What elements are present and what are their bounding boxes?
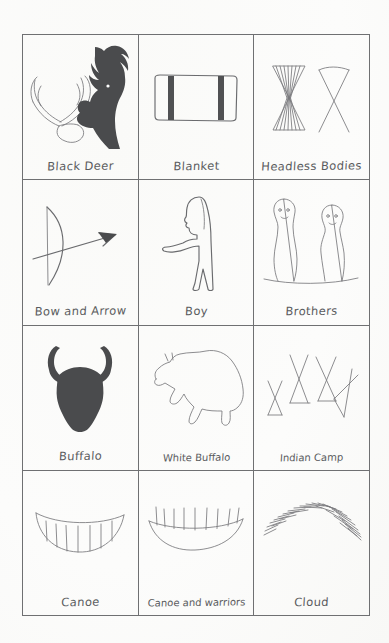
- cell-label: Canoe: [22, 596, 138, 616]
- symbol-grid: Black Deer Blanket: [22, 34, 370, 616]
- cloud-hatch-icon: [254, 471, 369, 597]
- scanned-page: Black Deer Blanket: [0, 0, 389, 643]
- cell-bow-and-arrow[interactable]: Bow and Arrow: [23, 180, 139, 325]
- cell-label: Bow and Arrow: [22, 305, 138, 325]
- cell-label: Canoe and warriors: [138, 597, 254, 615]
- table-row: Buffalo White Buffalo: [23, 325, 370, 470]
- cell-label: Buffalo: [22, 451, 138, 471]
- cell-black-deer[interactable]: Black Deer: [23, 35, 139, 180]
- cell-canoe[interactable]: Canoe: [23, 470, 139, 615]
- cell-headless-bodies[interactable]: Headless Bodies: [254, 35, 370, 180]
- cell-boy[interactable]: Boy: [138, 180, 254, 325]
- cell-indian-camp[interactable]: Indian Camp: [254, 325, 370, 470]
- cell-cloud[interactable]: Cloud: [254, 470, 370, 615]
- cell-label: Brothers: [254, 305, 370, 325]
- blanket-icon: [139, 35, 254, 161]
- cell-label: Boy: [138, 305, 254, 325]
- buffalo-head-icon: [23, 326, 138, 452]
- buffalo-outline-icon: [139, 326, 254, 453]
- cell-label: Indian Camp: [254, 452, 370, 470]
- cell-white-buffalo[interactable]: White Buffalo: [138, 325, 254, 470]
- cell-label: Blanket: [138, 160, 254, 180]
- deer-head-icon: [23, 35, 138, 161]
- two-figures-icon: [254, 180, 369, 306]
- hourglass-bodies-icon: [254, 35, 369, 161]
- cell-label: Black Deer: [22, 160, 138, 180]
- cell-label: Headless Bodies: [254, 160, 370, 180]
- cell-canoe-and-warriors[interactable]: Canoe and warriors: [138, 470, 254, 615]
- tepees-icon: [254, 326, 369, 453]
- cell-brothers[interactable]: Brothers: [254, 180, 370, 325]
- cell-blanket[interactable]: Blanket: [138, 35, 254, 180]
- pictograph-chart: Black Deer Blanket: [22, 34, 370, 616]
- canoe-icon: [23, 471, 138, 597]
- bow-arrow-icon: [23, 180, 138, 306]
- canoe-warriors-icon: [139, 471, 254, 598]
- table-row: Canoe: [23, 470, 370, 615]
- table-row: Bow and Arrow Boy: [23, 180, 370, 325]
- cell-label: Cloud: [254, 596, 370, 616]
- cell-buffalo[interactable]: Buffalo: [23, 325, 139, 470]
- table-row: Black Deer Blanket: [23, 35, 370, 180]
- cell-label: White Buffalo: [138, 452, 254, 470]
- standing-boy-icon: [139, 180, 254, 306]
